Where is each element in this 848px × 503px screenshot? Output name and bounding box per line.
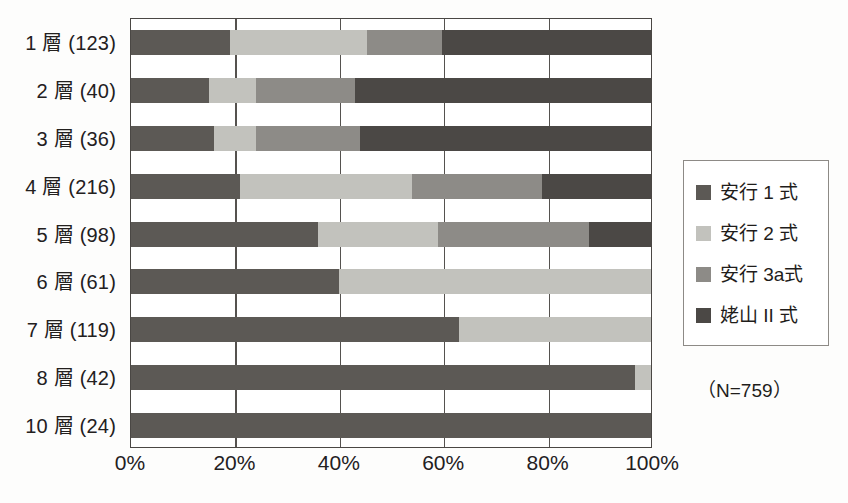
bar-segment bbox=[438, 222, 589, 247]
bar-segment bbox=[131, 126, 214, 151]
legend-label: 安行 2 式 bbox=[720, 224, 798, 243]
plot-area bbox=[130, 18, 652, 448]
bar-segment bbox=[240, 174, 412, 199]
x-axis-tick-label: 20% bbox=[213, 452, 255, 473]
bar-row bbox=[131, 30, 651, 55]
bar-segment bbox=[256, 78, 355, 103]
bar-segment bbox=[459, 317, 651, 342]
x-axis-tick-labels: 0%20%40%60%80%100% bbox=[130, 452, 652, 486]
bar-segment bbox=[635, 365, 651, 390]
legend-item[interactable]: 姥山 II 式 bbox=[696, 295, 828, 336]
bar-row bbox=[131, 269, 651, 294]
legend: 安行 1 式安行 2 式安行 3a式姥山 II 式 bbox=[683, 160, 829, 346]
legend-swatch-icon bbox=[696, 226, 711, 241]
legend-swatch-icon bbox=[696, 308, 711, 323]
x-axis-tick-label: 0% bbox=[115, 452, 145, 473]
bar-segment bbox=[131, 30, 230, 55]
chart-container: 1 層 (123)2 層 (40)3 層 (36)4 層 (216)5 層 (9… bbox=[0, 0, 848, 503]
bar-segment bbox=[367, 30, 442, 55]
bar-segment bbox=[318, 222, 438, 247]
legend-item[interactable]: 安行 2 式 bbox=[696, 213, 828, 254]
legend-label: 安行 3a式 bbox=[720, 265, 803, 284]
legend-item[interactable]: 安行 3a式 bbox=[696, 254, 828, 295]
bar-segment bbox=[230, 30, 367, 55]
bar-segment bbox=[131, 222, 318, 247]
bar-segment bbox=[355, 78, 651, 103]
bar-segment bbox=[360, 126, 651, 151]
bar-segment bbox=[256, 126, 360, 151]
bar-segment bbox=[442, 30, 651, 55]
bar-segment bbox=[209, 78, 256, 103]
bar-row bbox=[131, 317, 651, 342]
y-axis-label: 7 層 (119) bbox=[0, 320, 116, 340]
y-axis-label: 1 層 (123) bbox=[0, 33, 116, 53]
legend-swatch-icon bbox=[696, 185, 711, 200]
bar-segment bbox=[542, 174, 651, 199]
bar-segment bbox=[339, 269, 651, 294]
bar-segment bbox=[131, 413, 651, 438]
bar-segment bbox=[412, 174, 542, 199]
bar-row bbox=[131, 413, 651, 438]
stacked-bars bbox=[131, 19, 651, 447]
bar-row bbox=[131, 174, 651, 199]
y-axis-category-labels: 1 層 (123)2 層 (40)3 層 (36)4 層 (216)5 層 (9… bbox=[0, 18, 124, 448]
bar-segment bbox=[131, 365, 635, 390]
y-axis-label: 2 層 (40) bbox=[0, 81, 116, 101]
x-axis-tick-label: 100% bbox=[625, 452, 679, 473]
y-axis-label: 5 層 (98) bbox=[0, 225, 116, 245]
legend-label: 姥山 II 式 bbox=[720, 306, 798, 325]
bar-segment bbox=[214, 126, 256, 151]
bar-segment bbox=[131, 317, 459, 342]
y-axis-label: 4 層 (216) bbox=[0, 177, 116, 197]
sample-size-annotation: （N=759） bbox=[697, 375, 792, 402]
y-axis-label: 10 層 (24) bbox=[0, 416, 116, 436]
bar-row bbox=[131, 222, 651, 247]
legend-label: 安行 1 式 bbox=[720, 183, 798, 202]
bar-row bbox=[131, 126, 651, 151]
bar-segment bbox=[131, 174, 240, 199]
x-axis-tick-label: 80% bbox=[527, 452, 569, 473]
legend-swatch-icon bbox=[696, 267, 711, 282]
legend-item[interactable]: 安行 1 式 bbox=[696, 172, 828, 213]
bar-row bbox=[131, 365, 651, 390]
y-axis-label: 6 層 (61) bbox=[0, 272, 116, 292]
x-axis-tick-label: 40% bbox=[318, 452, 360, 473]
y-axis-label: 8 層 (42) bbox=[0, 368, 116, 388]
bar-segment bbox=[131, 78, 209, 103]
x-axis-tick-label: 60% bbox=[422, 452, 464, 473]
bar-segment bbox=[131, 269, 339, 294]
bar-segment bbox=[589, 222, 651, 247]
y-axis-label: 3 層 (36) bbox=[0, 129, 116, 149]
bar-row bbox=[131, 78, 651, 103]
